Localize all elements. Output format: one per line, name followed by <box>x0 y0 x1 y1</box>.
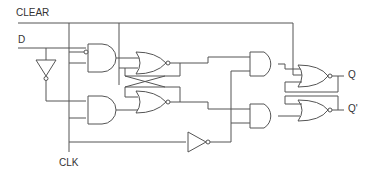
d-label: D <box>18 35 25 45</box>
master-nor-top-icon <box>136 52 180 74</box>
slave-and-bottom-icon <box>250 104 300 128</box>
d-inverter-icon <box>36 60 86 101</box>
circuit-svg <box>0 0 368 178</box>
clk-label: CLK <box>59 158 78 168</box>
master-nor-bottom-icon <box>136 91 180 113</box>
d-wire <box>18 48 86 60</box>
master-to-slave-wires <box>180 57 250 109</box>
slave-and-top-icon <box>250 52 304 76</box>
clk-inverter-icon <box>188 71 250 152</box>
q-bar-label: Q' <box>348 104 358 114</box>
slave-nor-top-icon <box>298 65 344 87</box>
q-label: Q <box>348 70 356 80</box>
master-and-bottom-icon <box>88 96 140 124</box>
circuit-diagram: CLEAR D CLK Q Q' <box>0 0 368 178</box>
clear-label: CLEAR <box>16 8 49 18</box>
slave-nor-bottom-icon <box>298 100 344 121</box>
